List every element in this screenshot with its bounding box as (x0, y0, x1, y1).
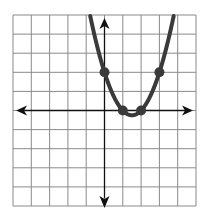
data-point (118, 106, 128, 116)
data-point (154, 67, 164, 77)
coordinate-plane (0, 0, 207, 215)
parabola-curve (90, 16, 173, 115)
data-point (100, 67, 110, 77)
parabola-path (90, 16, 173, 115)
data-point (136, 106, 146, 116)
